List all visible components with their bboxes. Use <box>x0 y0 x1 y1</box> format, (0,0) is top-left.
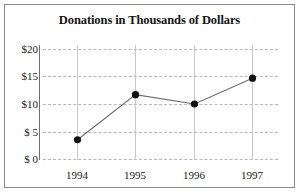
data-point-1996 <box>191 100 198 107</box>
plot-area: $20 $15 $10 $ 5 $ 0 1994 1995 1996 1997 <box>5 5 296 189</box>
chart-container: Donations in Thousands of Dollars $20 $1… <box>4 4 295 188</box>
data-series <box>5 5 296 189</box>
data-point-1994 <box>74 136 81 143</box>
series-line <box>78 78 253 140</box>
data-point-1997 <box>249 75 256 82</box>
data-point-1995 <box>132 91 139 98</box>
series-markers <box>74 75 256 144</box>
